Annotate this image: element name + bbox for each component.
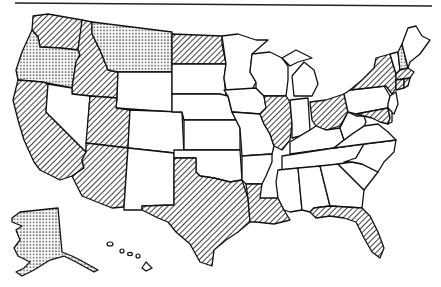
us-map-svg bbox=[0, 0, 441, 287]
state-ak bbox=[12, 208, 98, 276]
state-ks bbox=[184, 120, 240, 150]
state-ct bbox=[396, 79, 404, 90]
state-ar bbox=[242, 154, 272, 184]
state-wy bbox=[116, 72, 172, 112]
state-ri bbox=[404, 78, 410, 88]
top-rule bbox=[15, 3, 432, 6]
us-map: United States bbox=[0, 0, 441, 287]
state-co bbox=[128, 110, 184, 154]
state-nd bbox=[172, 34, 226, 64]
state-sd bbox=[172, 64, 226, 96]
state-me bbox=[402, 26, 430, 68]
state-fl bbox=[310, 206, 384, 258]
state-nm bbox=[124, 148, 174, 210]
state-ny bbox=[350, 54, 396, 94]
state-hi bbox=[107, 242, 152, 271]
